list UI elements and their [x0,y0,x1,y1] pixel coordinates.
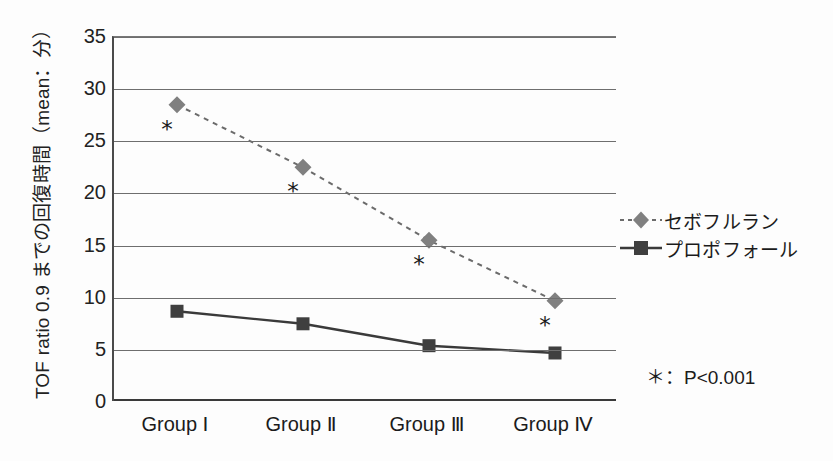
gridline [114,37,616,38]
gridline [114,89,616,90]
diamond-marker [618,209,664,231]
x-tick-label: Group Ⅳ [473,412,633,436]
y-tick-label: 20 [58,182,106,202]
y-tick-label: 35 [58,26,106,46]
legend-label: セボフルラン [664,207,779,234]
significance-asterisk: * [278,180,308,203]
data-point-marker [297,317,310,330]
significance-asterisk: * [530,314,560,337]
series-line-1 [177,105,555,301]
y-tick-label: 10 [58,287,106,307]
gridline [114,298,616,299]
significance-asterisk: * [404,253,434,276]
series-layer [114,37,618,402]
legend-item-2[interactable]: プロポフォール [618,234,833,262]
y-axis-tick-labels: 35302520151050 [50,0,106,461]
data-point-marker [549,346,562,359]
y-tick-label: 5 [58,339,106,359]
data-point-marker [295,159,312,176]
series-line-2 [177,311,555,353]
gridline [114,350,616,351]
gridline [114,141,616,142]
square-marker [618,237,664,259]
data-point-marker [547,292,564,309]
data-point-marker [171,305,184,318]
data-point-marker [169,96,186,113]
gridline [114,246,616,247]
chart-legend: セボフルランプロポフォール [618,206,833,262]
plot-area [112,36,616,401]
y-tick-label: 25 [58,130,106,150]
y-tick-label: 15 [58,235,106,255]
p-value-note: ＊：P<0.001 [646,362,755,389]
y-tick-label: 0 [58,391,106,411]
gridline [114,193,616,194]
legend-item-1[interactable]: セボフルラン [618,206,833,234]
chart-figure: TOF ratio 0.9 までの回復時間（mean：分） 3530252015… [0,0,833,461]
legend-label: プロポフォール [664,235,798,262]
significance-asterisk: * [152,118,182,141]
y-tick-label: 30 [58,78,106,98]
